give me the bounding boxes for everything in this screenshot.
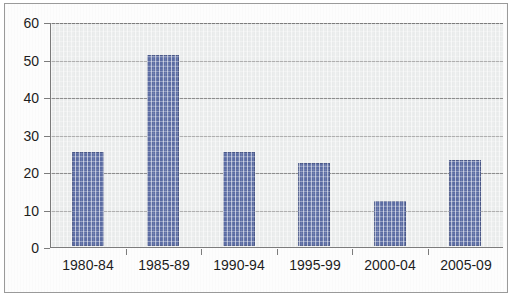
y-axis-label: 60 [5,16,39,30]
bar-1980-84[interactable] [72,152,104,246]
bar-texture [298,163,330,246]
y-axis-tick [44,173,50,174]
y-axis-label: 50 [5,54,39,68]
bar-2000-04[interactable] [374,201,406,246]
x-axis-tick [352,249,353,255]
gridline [51,98,503,99]
y-axis-label: 30 [5,129,39,143]
y-axis-label: 20 [5,166,39,180]
y-axis-label: 40 [5,91,39,105]
bar-texture [449,160,481,246]
y-axis-tick [44,211,50,212]
bar-texture [147,55,179,246]
bar-texture [72,152,104,246]
x-axis-tick [126,249,127,255]
y-axis-tick [44,248,50,249]
x-axis-label-2005-09: 2005-09 [428,258,504,272]
y-axis-label: 10 [5,204,39,218]
gridline [51,211,503,212]
gridline [51,136,503,137]
x-axis-label-1985-89: 1985-89 [126,258,202,272]
gridline [51,61,503,62]
x-axis-tick [428,249,429,255]
bar-texture [223,152,255,246]
gridline [51,173,503,174]
x-axis-tick [201,249,202,255]
x-axis-tick [277,249,278,255]
bar-1985-89[interactable] [147,55,179,246]
bar-1995-99[interactable] [298,163,330,246]
x-axis-label-1990-94: 1990-94 [201,258,277,272]
y-axis-tick [44,61,50,62]
bar-texture [374,201,406,246]
y-axis-label: 0 [5,241,39,255]
plot-area [50,23,503,248]
y-axis-tick [44,23,50,24]
chart-frame: 6050403020100 1980-841985-891990-941995-… [4,3,508,293]
bar-1990-94[interactable] [223,152,255,246]
gridline [51,23,503,24]
x-axis-label-1980-84: 1980-84 [50,258,126,272]
y-axis-tick [44,136,50,137]
x-axis-label-1995-99: 1995-99 [277,258,353,272]
bar-2005-09[interactable] [449,160,481,246]
y-axis-tick [44,98,50,99]
x-axis-label-2000-04: 2000-04 [352,258,428,272]
